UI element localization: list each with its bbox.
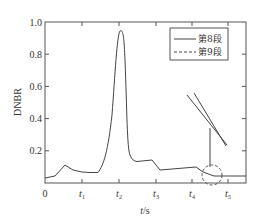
legend-label: 第9段	[198, 46, 222, 57]
xtick-label: t1	[79, 188, 85, 200]
ytick-label: 0.2	[30, 145, 43, 156]
xtick-label: t3	[153, 188, 159, 200]
xtick-label: t4	[189, 188, 195, 200]
xtick-label: 0	[43, 188, 48, 199]
ytick-label: 0.8	[30, 49, 43, 60]
ytick-label: 1.0	[30, 17, 43, 28]
xtick-label: t2	[116, 188, 122, 200]
ytick-label: 0.6	[30, 81, 43, 92]
dnbr-chart: 1.0 0.8 0.6 0.4 0.2 0 t1 t2 t3 t4 t5 DNB…	[0, 0, 257, 223]
legend: 第8段 第9段	[170, 28, 228, 60]
ytick-label: 0.4	[30, 113, 43, 124]
y-axis-label: DNBR	[12, 88, 23, 116]
xtick-label: t5	[225, 188, 231, 200]
legend-label: 第8段	[198, 33, 222, 44]
y-ticks	[45, 54, 246, 151]
x-axis-label: t/s	[140, 205, 150, 216]
